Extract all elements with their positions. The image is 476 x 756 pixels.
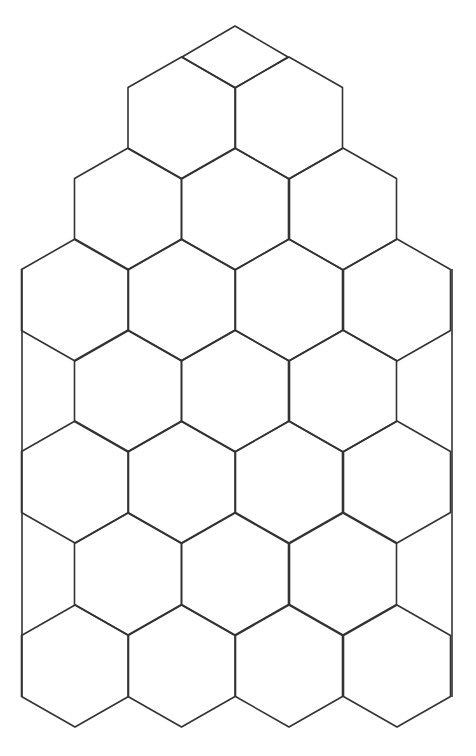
hex-cell-r6-c1 bbox=[75, 513, 182, 635]
hex-cell-r1-c2 bbox=[236, 57, 343, 179]
hex-cell-r5-c1 bbox=[22, 421, 129, 543]
boundary-edges bbox=[22, 269, 452, 697]
hex-cell-r3-c4 bbox=[344, 239, 451, 361]
hex-cell-r3-c1 bbox=[22, 239, 129, 361]
hex-cell-r7-c3 bbox=[236, 605, 343, 727]
hex-cell-r5-c4 bbox=[344, 421, 451, 543]
hex-cells bbox=[22, 26, 451, 727]
hex-cell-r4-c3 bbox=[290, 330, 397, 452]
hex-cell-r4-c2 bbox=[182, 330, 289, 452]
hex-cell-r7-c1 bbox=[22, 605, 129, 727]
hex-cell-r2-c1 bbox=[75, 148, 182, 270]
hex-cell-r7-c2 bbox=[128, 605, 235, 727]
hex-cell-r3-c2 bbox=[128, 239, 235, 361]
hex-cell-r4-c1 bbox=[75, 330, 182, 452]
hex-cell-r2-c3 bbox=[290, 148, 397, 270]
hex-cell-r7-c4 bbox=[344, 605, 451, 727]
hex-cell-r5-c3 bbox=[236, 421, 343, 543]
hex-cell-r3-c3 bbox=[236, 239, 343, 361]
hex-cell-r5-c2 bbox=[128, 421, 235, 543]
hex-cell-r6-c3 bbox=[290, 513, 397, 635]
hex-cell-r1-c1 bbox=[128, 57, 235, 179]
hex-cell-r2-c2 bbox=[182, 148, 289, 270]
hexagon-grid-diagram bbox=[0, 0, 476, 756]
hex-cell-r6-c2 bbox=[182, 513, 289, 635]
top-diamond-cell bbox=[182, 26, 288, 88]
